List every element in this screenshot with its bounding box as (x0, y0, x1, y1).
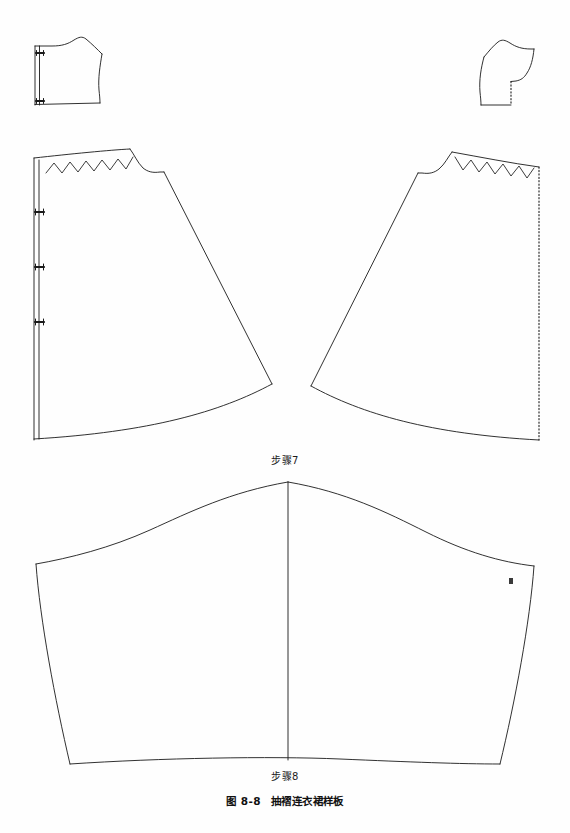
side-seam-bodice-right (480, 57, 484, 105)
top-edge-skirt-left (34, 149, 130, 158)
sleeve-cap-right-curve (288, 482, 534, 566)
side-seam-skirt-left (164, 172, 272, 384)
pattern-piece-bodice-right (480, 40, 534, 105)
neckline-curve-bodice-left (35, 37, 102, 54)
caption-step-7: 步骤7 (0, 452, 570, 467)
side-seam-skirt-right (311, 173, 418, 386)
hem-curve-skirt-left (34, 384, 272, 439)
pattern-piece-skirt-right (311, 152, 539, 440)
sleeve-underarm-seam-right (500, 566, 534, 764)
sleeve-hem-curve (70, 758, 500, 764)
notch-marks-skirt-left (35, 212, 44, 322)
top-edge-skirt-right (452, 152, 539, 167)
sleeve-front-mark-icon (509, 578, 513, 584)
figure-caption: 图 8-8抽褶连衣裙样板 (0, 793, 570, 808)
pattern-drawing-canvas (0, 0, 570, 833)
sleeve-cap-left-curve (36, 482, 288, 564)
armhole-curve-bodice-right (511, 49, 534, 82)
hem-curve-skirt-right (311, 386, 539, 440)
pattern-piece-skirt-left (34, 149, 272, 440)
shoulder-line-bodice-right (484, 40, 534, 57)
figure-number: 图 8-8 (226, 795, 261, 807)
pattern-piece-sleeve (36, 482, 534, 764)
notch-caps-bodice-left (37, 51, 44, 104)
armhole-curve-skirt-right (418, 152, 452, 173)
caption-step-8: 步骤8 (0, 768, 570, 783)
figure-title: 抽褶连衣裙样板 (271, 795, 344, 807)
pattern-page: 步骤7 步骤8 图 8-8抽褶连衣裙样板 (0, 0, 570, 833)
notch-marks-bodice-left (36, 53, 44, 101)
sleeve-underarm-seam-left (36, 564, 70, 764)
armhole-curve-skirt-left (130, 149, 164, 172)
hem-line-bodice-left (35, 103, 100, 105)
pattern-piece-bodice-left (35, 37, 102, 105)
gather-zigzag-skirt-left (46, 157, 133, 173)
side-seam-bodice-left (99, 54, 102, 103)
